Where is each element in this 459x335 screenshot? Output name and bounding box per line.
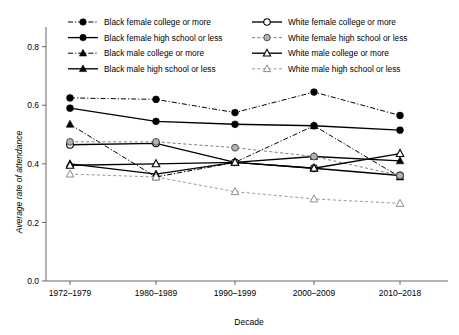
x-axis-title: Decade [234,317,264,327]
legend-item[interactable]: Black female high school or less [68,33,223,43]
x-axis-tick-label: 1972–1979 [49,288,92,298]
data-point-marker [232,109,239,116]
legend-item-label: White male college or more [288,48,389,58]
legend-item-label: White male high school or less [288,64,401,74]
legend-marker-icon [79,49,86,56]
legend-marker-icon [80,34,86,40]
y-axis-tick-label: 0.0 [27,276,39,286]
legend-item[interactable]: White male high school or less [252,64,401,74]
legend-item-label: White female college or more [288,17,396,27]
data-point-marker [153,118,160,125]
data-point-marker [396,149,404,156]
chart-container: Black female college or moreWhite female… [0,0,459,335]
x-axis-tick-label: 1990–1999 [214,288,257,298]
series-7 [66,170,404,206]
legend-item-label: Black male high school or less [104,64,216,74]
legend-item-label: Black female high school or less [104,33,223,43]
series-0 [67,89,404,119]
y-axis-tick-label: 0.4 [27,159,39,169]
line-chart: Black female college or moreWhite female… [0,0,459,335]
legend-item[interactable]: White female high school or less [252,33,407,43]
data-point-marker [311,89,318,96]
data-point-marker [67,138,74,145]
legend-item-label: Black female college or more [104,17,211,27]
legend-item[interactable]: White female college or more [252,17,396,27]
legend-item[interactable]: Black male college or more [68,48,204,58]
data-point-marker [397,112,404,119]
legend-item-label: Black male college or more [104,48,204,58]
data-point-marker [397,127,404,134]
data-point-marker [66,120,74,127]
legend-marker-icon [80,19,86,25]
y-axis-tick-label: 0.2 [27,218,39,228]
legend-item[interactable]: Black female college or more [68,17,211,27]
data-point-marker [311,153,318,160]
data-point-marker [67,95,74,102]
chart-series-layer [66,89,404,207]
y-axis-tick-label: 0.8 [27,42,39,52]
data-point-marker [397,172,404,179]
data-point-marker [153,96,160,103]
y-axis-tick-label: 0.6 [27,100,39,110]
legend-item-label: White female high school or less [288,33,407,43]
y-axis-title: Average rate of attendance [14,131,24,235]
x-axis-tick-label: 2010–2018 [379,288,422,298]
data-point-marker [232,121,239,128]
legend-item[interactable]: Black male high school or less [68,64,216,74]
chart-legend: Black female college or moreWhite female… [68,17,407,74]
data-point-marker [153,138,160,145]
data-point-marker [232,144,239,151]
data-point-marker [66,170,74,177]
legend-marker-icon [263,65,270,72]
data-point-marker [396,199,404,206]
x-axis-tick-label: 1980–1989 [135,288,178,298]
legend-marker-icon [264,34,270,40]
data-point-marker [67,105,74,112]
legend-item[interactable]: White male college or more [252,48,389,58]
legend-marker-icon [264,19,270,25]
x-axis-tick-label: 2000–2009 [293,288,336,298]
